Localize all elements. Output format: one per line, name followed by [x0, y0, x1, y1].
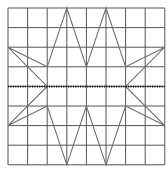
grid-diagram: [0, 0, 168, 174]
grid-lines: [8, 8, 165, 165]
